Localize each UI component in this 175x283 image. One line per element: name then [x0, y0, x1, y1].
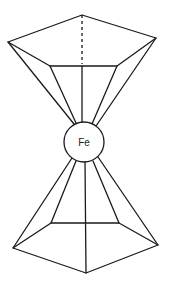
bottom-ring	[13, 157, 158, 273]
iron-atom: Fe	[64, 122, 104, 162]
top-ring	[8, 15, 156, 126]
bottom-spoke-inner-right	[93, 161, 119, 223]
bottom-ring-center-spoke	[85, 162, 86, 273]
iron-atom-label: Fe	[78, 137, 90, 148]
top-spoke-outer-right	[96, 38, 156, 126]
ferrocene-diagram: Fe	[0, 0, 175, 283]
top-spoke-outer-left	[8, 42, 74, 124]
bottom-spoke-outer-left	[13, 158, 72, 248]
top-spoke-inner-right	[92, 66, 117, 124]
bottom-spoke-outer-right	[98, 157, 158, 245]
top-spoke-inner-left	[50, 66, 76, 123]
